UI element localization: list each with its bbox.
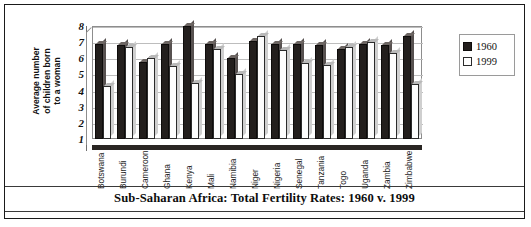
legend-label-1960: 1960 bbox=[476, 41, 497, 52]
bar-group bbox=[249, 26, 265, 139]
legend-item-1960: 1960 bbox=[463, 39, 511, 54]
legend-swatch-1999 bbox=[463, 57, 472, 66]
bar-side-face bbox=[331, 59, 334, 136]
x-axis-label-namibia: Namibia bbox=[228, 129, 239, 189]
bar-side-face bbox=[111, 80, 114, 136]
legend: 19601999 bbox=[459, 34, 515, 76]
bar-front-face bbox=[257, 36, 265, 139]
bar-front-face bbox=[117, 45, 125, 139]
y-axis-tick-label: 5 bbox=[79, 69, 85, 80]
bar-togo-1999 bbox=[345, 47, 353, 139]
bar-side-face bbox=[397, 47, 400, 136]
bar-front-face bbox=[293, 44, 301, 139]
bar-group bbox=[337, 26, 353, 139]
bar-uganda-1960 bbox=[359, 44, 367, 139]
y-axis-tick-label: 1 bbox=[79, 134, 85, 145]
bar-group bbox=[117, 26, 133, 139]
bar-front-face bbox=[367, 42, 375, 139]
bar-group bbox=[271, 26, 287, 139]
bar-front-face bbox=[301, 63, 309, 139]
bar-burundi-1960 bbox=[117, 45, 125, 139]
bar-zimbabwe-1960 bbox=[403, 36, 411, 139]
bar-front-face bbox=[205, 44, 213, 139]
bar-group bbox=[315, 26, 331, 139]
bar-side-face bbox=[375, 36, 378, 136]
bar-mali-1960 bbox=[205, 44, 213, 139]
bar-uganda-1999 bbox=[367, 42, 375, 139]
bar-cameroon-1960 bbox=[139, 62, 147, 139]
bar-group bbox=[161, 26, 177, 139]
x-axis-label-nigeria: Nigeria bbox=[272, 129, 283, 189]
bar-front-face bbox=[227, 58, 235, 139]
x-axis-label-ghana: Ghana bbox=[162, 129, 173, 189]
bar-front-face bbox=[337, 49, 345, 139]
bar-front-face bbox=[183, 26, 191, 139]
bar-niger-1999 bbox=[257, 36, 265, 139]
y-axis-title-line-1: Average number bbox=[31, 47, 42, 115]
legend-item-1999: 1999 bbox=[463, 54, 511, 69]
bar-niger-1960 bbox=[249, 41, 257, 139]
x-axis-label-senegal: Senegal bbox=[294, 129, 305, 189]
y-axis-tick-label: 2 bbox=[79, 118, 85, 129]
bar-side-face bbox=[155, 52, 158, 136]
x-axis-label-uganda: Uganda bbox=[360, 129, 371, 189]
bar-tanzania-1960 bbox=[315, 45, 323, 139]
y-axis-ticks: 87654321 bbox=[64, 26, 86, 152]
chart-plot-region: Average number of children born to a wom… bbox=[4, 4, 525, 184]
bar-group bbox=[139, 26, 155, 139]
bar-nigeria-1999 bbox=[279, 50, 287, 139]
y-axis-tick-label: 6 bbox=[79, 53, 85, 64]
bar-senegal-1999 bbox=[301, 63, 309, 139]
x-axis-label-cameroon: Cameroon bbox=[140, 129, 151, 189]
bar-cameroon-1999 bbox=[147, 58, 155, 139]
bar-front-face bbox=[381, 45, 389, 139]
bar-side-face bbox=[221, 43, 224, 136]
bar-front-face bbox=[271, 44, 279, 139]
bars-container bbox=[92, 26, 422, 139]
title-separator-rule bbox=[5, 186, 524, 187]
bar-group bbox=[183, 26, 199, 139]
bar-side-face bbox=[353, 41, 356, 136]
bar-group bbox=[205, 26, 221, 139]
bar-front-face bbox=[345, 47, 353, 139]
bar-group bbox=[403, 26, 419, 139]
bar-front-face bbox=[213, 49, 221, 139]
x-axis-label-botswana: Botswana bbox=[96, 129, 107, 189]
bar-front-face bbox=[249, 41, 257, 139]
bar-side-face bbox=[243, 68, 246, 136]
y-axis-title: Average number of children born to a wom… bbox=[30, 18, 64, 144]
x-axis-label-togo: Togo bbox=[338, 129, 349, 189]
x-axis-label-zambia: Zambia bbox=[382, 129, 393, 189]
bottom-rule bbox=[5, 211, 524, 212]
bar-nigeria-1960 bbox=[271, 44, 279, 139]
y-axis-title-line-3: to a woman bbox=[52, 57, 63, 104]
bar-group bbox=[359, 26, 375, 139]
bar-kenya-1960 bbox=[183, 26, 191, 139]
y-axis-tick-label: 8 bbox=[79, 21, 85, 32]
y-axis-tick-label: 7 bbox=[79, 37, 85, 48]
x-axis-label-kenya: Kenya bbox=[184, 129, 195, 189]
bar-front-face bbox=[147, 58, 155, 139]
bar-group bbox=[381, 26, 397, 139]
bar-side-face bbox=[177, 60, 180, 136]
bar-mali-1999 bbox=[213, 49, 221, 139]
chart-title: Sub-Saharan Africa: Total Fertility Rate… bbox=[5, 191, 524, 206]
y-axis-tick-label: 3 bbox=[79, 102, 85, 113]
bar-front-face bbox=[139, 62, 147, 139]
bar-side-face bbox=[199, 77, 202, 137]
y-axis-title-line-2: of children born bbox=[42, 48, 53, 113]
legend-swatch-1960 bbox=[463, 42, 472, 51]
legend-label-1999: 1999 bbox=[476, 56, 497, 67]
bar-side-face bbox=[287, 44, 290, 136]
bar-side-face bbox=[309, 57, 312, 136]
bar-side-face bbox=[419, 78, 422, 136]
bar-front-face bbox=[403, 36, 411, 139]
bar-front-face bbox=[125, 47, 133, 139]
bar-tanzania-1999 bbox=[323, 65, 331, 139]
bar-side-face bbox=[133, 41, 136, 136]
bar-front-face bbox=[315, 45, 323, 139]
bar-side-face bbox=[265, 30, 268, 136]
x-axis-label-zimbabwe: Zimbabwe bbox=[404, 129, 415, 189]
bar-zambia-1999 bbox=[389, 53, 397, 139]
bar-front-face bbox=[359, 44, 367, 139]
